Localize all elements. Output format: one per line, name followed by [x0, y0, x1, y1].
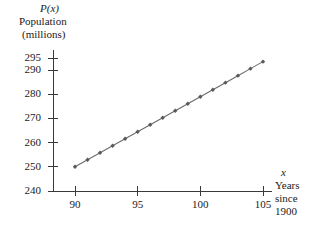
population-line-chart-figure: P(x) Population (millions) x Years since…	[0, 0, 313, 236]
data-point-marker	[198, 94, 202, 98]
data-point-marker	[161, 116, 165, 120]
data-point-marker	[223, 80, 227, 84]
data-point-marker	[211, 87, 215, 91]
data-point-marker	[186, 102, 190, 106]
data-point-marker	[135, 130, 139, 134]
data-point-marker	[110, 144, 114, 148]
data-point-marker	[123, 137, 127, 141]
data-point-marker	[73, 165, 77, 169]
plot-area	[0, 0, 313, 236]
data-point-marker	[248, 66, 252, 70]
data-point-marker	[98, 151, 102, 155]
data-point-marker	[173, 109, 177, 113]
data-point-marker	[148, 123, 152, 127]
data-point-marker	[236, 73, 240, 77]
axes-group	[53, 50, 272, 191]
data-line	[75, 62, 263, 167]
data-point-marker	[85, 158, 89, 162]
data-point-marker	[261, 59, 265, 63]
